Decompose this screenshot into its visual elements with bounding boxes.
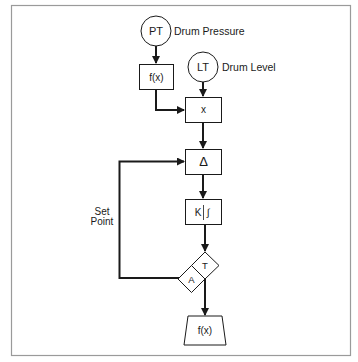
- multiply-label: x: [201, 104, 206, 115]
- a-label: A: [188, 274, 195, 285]
- integral-block: K ∫: [186, 200, 222, 225]
- lt-label: Drum Level: [222, 61, 276, 73]
- delta-label: Δ: [199, 154, 208, 169]
- pressure-transmitter: PT Drum Pressure: [141, 16, 245, 46]
- connector: [156, 90, 184, 110]
- t-label: T: [202, 260, 208, 271]
- set-point-loop: [120, 162, 185, 279]
- level-transmitter: LT Drum Level: [188, 52, 276, 82]
- set-point-label-2: Point: [91, 216, 114, 227]
- k-label: K: [195, 207, 202, 218]
- transfer-station: T A: [178, 252, 219, 293]
- fx-top-label: f(x): [149, 72, 163, 83]
- pt-tag: PT: [149, 25, 163, 37]
- lt-tag: LT: [197, 61, 209, 73]
- pt-label: Drum Pressure: [174, 25, 245, 37]
- function-block-top: f(x): [140, 65, 174, 90]
- final-control-element: f(x): [184, 316, 226, 345]
- multiply-block: x: [186, 98, 222, 123]
- fx-bottom-label: f(x): [198, 325, 212, 336]
- diagram-frame: [12, 6, 351, 356]
- control-diagram: PT Drum Pressure f(x) LT Drum Level x Δ …: [0, 0, 358, 362]
- delta-block: Δ: [186, 150, 222, 175]
